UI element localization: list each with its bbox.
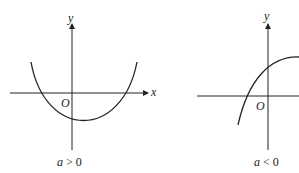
graph-a-negative bbox=[197, 24, 299, 150]
origin-label: O bbox=[61, 97, 70, 109]
x-axis-label: x bbox=[151, 86, 156, 98]
parabola-curve bbox=[31, 62, 137, 121]
condition-label: a > 0 bbox=[57, 156, 82, 168]
graph-a-positive bbox=[10, 24, 148, 150]
y-axis-label: y bbox=[264, 10, 269, 22]
y-axis-label: y bbox=[68, 12, 73, 24]
diagram-canvas bbox=[0, 0, 299, 173]
origin-label: O bbox=[256, 100, 265, 112]
condition-label: a < 0 bbox=[254, 156, 279, 168]
